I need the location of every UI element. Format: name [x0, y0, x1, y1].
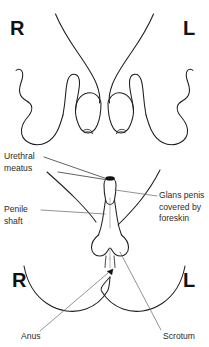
right-inner-limb-curve [56, 14, 100, 103]
orientation-marker-upper-left: L [183, 18, 195, 38]
lower-panel-group [24, 157, 185, 331]
urethral-meatus-mark [105, 177, 114, 181]
right-outer-limb-outline [16, 69, 63, 144]
right-buttock-arc [24, 266, 110, 311]
orientation-marker-upper-right: R [10, 18, 24, 38]
right-middle-limb-outline [63, 74, 80, 115]
upper-panel-group [16, 14, 193, 145]
left-groin-crease [118, 170, 160, 225]
label-scrotum: Scrotum [163, 331, 195, 343]
anatomical-figure: R L R L Urethral meatus Penile shaft Gla… [0, 0, 209, 347]
scrotum-leader [120, 252, 161, 330]
orientation-marker-lower-left: L [183, 270, 195, 290]
penile-shaft-right-outline [115, 200, 122, 235]
label-urethral-meatus: Urethral meatus [4, 151, 35, 174]
right-inner-bulb-outline [76, 93, 102, 133]
right-groin-crease [47, 172, 96, 222]
left-inner-bulb-outline [108, 93, 134, 133]
anus-mark [107, 269, 113, 275]
orientation-marker-lower-right: R [12, 270, 26, 290]
perineal-raphe-right [114, 256, 115, 268]
penile-shaft-leader [41, 210, 105, 214]
perineal-raphe-left [105, 256, 106, 268]
penile-shaft-left-outline [99, 200, 106, 235]
glans-penis-leader [115, 190, 157, 196]
left-middle-limb-outline [130, 74, 147, 115]
label-penile-shaft: Penile shaft [4, 204, 28, 227]
label-anus: Anus [21, 331, 41, 343]
left-inner-limb-curve [109, 14, 153, 103]
left-buttock-arc [101, 266, 185, 311]
label-glans-penis: Glans penis covered by foreskin [159, 190, 204, 225]
left-outer-limb-outline [146, 69, 193, 144]
